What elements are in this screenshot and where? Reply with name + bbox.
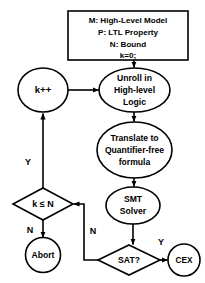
translate-line-3: formula	[119, 157, 151, 167]
unroll-line-3: Logic	[123, 97, 146, 107]
bound-check-label: k ≤ N	[32, 199, 53, 209]
translate-line-2: Quantifier-free	[105, 145, 164, 155]
init-line-2: P: LTL Property	[98, 28, 158, 37]
edge-label-bound-no: N	[27, 225, 34, 235]
unroll-line-1: Unroll in	[117, 73, 152, 83]
edge-label-bound-yes: Y	[25, 157, 31, 167]
smt-line-2: Solver	[120, 206, 147, 216]
init-line-4: k=0;	[120, 51, 136, 60]
unroll-line-2: High-level	[114, 85, 155, 95]
translate-line-1: Translate to	[110, 133, 158, 143]
cex-label: CEX	[176, 256, 193, 265]
abort-label: Abort	[32, 250, 55, 260]
flowchart-svg: CEX --> left, up, into k<=N right vertex…	[0, 0, 205, 283]
init-line-3: N: Bound	[110, 40, 146, 49]
increment-label: k++	[35, 84, 52, 95]
smt-line-1: SMT	[124, 194, 143, 204]
edge-label-sat-no: N	[90, 226, 97, 236]
flowchart-canvas: CEX --> left, up, into k<=N right vertex…	[0, 0, 205, 283]
sat-check-label: SAT?	[118, 255, 140, 265]
init-line-1: M: High-Level Model	[89, 16, 168, 25]
edge-label-sat-yes: Y	[158, 237, 164, 247]
